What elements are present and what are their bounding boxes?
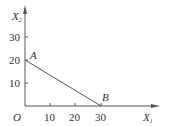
y-axis-label-sub: 2 [19,17,22,23]
y-tick-label-30: 30 [9,31,21,43]
y-axis-arrow-icon [23,5,27,14]
y-axis-label: X2 [11,10,22,23]
origin-label: O [13,111,21,123]
point-a-label: A [29,49,37,61]
x-axis-label: X1 [142,111,153,124]
x-tick-label-30: 30 [95,111,107,123]
segment-ab [25,60,101,106]
x-tick-label-10: 10 [44,111,56,123]
y-tick-label-10: 10 [9,77,21,89]
x-axis-arrow-icon [151,104,160,108]
x-axis-label-sub: 1 [150,118,153,124]
x-tick-label-20: 20 [69,111,81,123]
point-b-label: B [102,91,109,103]
coordinate-diagram: 30 20 10 10 20 30 O X2 X1 A B [0,0,174,126]
y-tick-label-20: 20 [9,54,21,66]
